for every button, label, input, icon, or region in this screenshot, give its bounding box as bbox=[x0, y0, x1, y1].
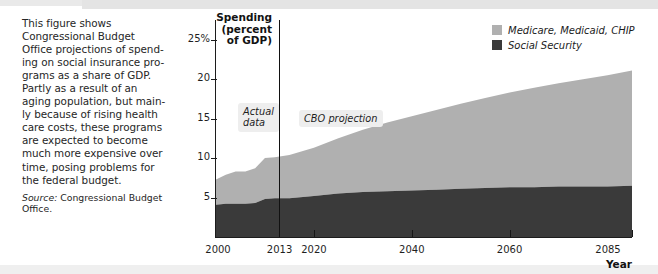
chart-figure: Spending (percent of GDP) Year 510152025… bbox=[0, 0, 658, 274]
annotation-cbo-projection: CBO projection bbox=[299, 110, 383, 127]
legend-label: Social Security bbox=[508, 40, 582, 51]
y-tick-label-10: 10 bbox=[166, 151, 210, 162]
y-tick-label-20: 20 bbox=[166, 72, 210, 83]
y-tick-label-5: 5 bbox=[166, 191, 210, 202]
x-tick-mark-2040 bbox=[412, 230, 413, 237]
x-tick-label-2040: 2040 bbox=[382, 244, 442, 255]
x-tick-mark-2085 bbox=[632, 230, 633, 237]
x-tick-label-2060: 2060 bbox=[480, 244, 540, 255]
y-tick-mark-5 bbox=[211, 198, 217, 199]
y-tick-mark-25 bbox=[211, 40, 217, 41]
projection-divider-line bbox=[279, 20, 281, 237]
x-tick-mark-2020 bbox=[314, 230, 315, 237]
chart-legend: Medicare, Medicaid, CHIPSocial Security bbox=[492, 23, 635, 53]
legend-swatch-icon bbox=[492, 25, 502, 35]
y-tick-label-15: 15 bbox=[166, 112, 210, 123]
figure-root: This figure shows Congressional Budget O… bbox=[0, 0, 658, 274]
legend-swatch-icon bbox=[492, 40, 502, 50]
legend-item-social-security: Social Security bbox=[492, 38, 635, 52]
legend-label: Medicare, Medicaid, CHIP bbox=[508, 25, 635, 36]
x-tick-label-2000: 2000 bbox=[188, 244, 248, 255]
y-tick-mark-20 bbox=[211, 79, 217, 80]
x-tick-label-2020: 2020 bbox=[284, 244, 344, 255]
y-tick-mark-10 bbox=[211, 158, 217, 159]
x-axis-title: Year bbox=[560, 258, 632, 270]
legend-item-medicare-medicaid-chip: Medicare, Medicaid, CHIP bbox=[492, 23, 635, 37]
y-tick-label-25: 25% bbox=[166, 33, 210, 44]
x-tick-mark-2060 bbox=[510, 230, 511, 237]
annotation-actual-data: Actual data bbox=[238, 103, 279, 132]
y-tick-mark-15 bbox=[211, 119, 217, 120]
x-tick-label-2085: 2085 bbox=[578, 244, 638, 255]
